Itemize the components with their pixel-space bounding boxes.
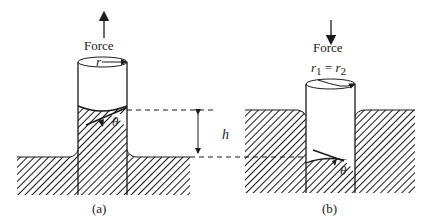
reservoir-liquid-b-left (245, 110, 306, 193)
caption-b: (b) (322, 201, 337, 216)
caption-a: (a) (92, 201, 106, 216)
force-label-b: Force (313, 40, 343, 55)
liquid-column-b (306, 159, 355, 194)
radius-equation-b: r1 = r2 (311, 60, 346, 77)
height-label: h (222, 127, 229, 142)
theta-label-a: θ (112, 114, 119, 129)
theta-label-b: θ (340, 163, 347, 178)
r2-subscript: 2 (340, 65, 346, 77)
equals-sign: = (322, 60, 336, 75)
reservoir-liquid-b-right (355, 110, 415, 193)
capillary-diagram: Force r θ (a) h Force (0, 0, 428, 222)
panel-b: Force r1 = r2 θ (b) (245, 20, 415, 216)
panel-a: Force r θ (a) (17, 16, 190, 216)
force-label-a: Force (84, 38, 114, 53)
